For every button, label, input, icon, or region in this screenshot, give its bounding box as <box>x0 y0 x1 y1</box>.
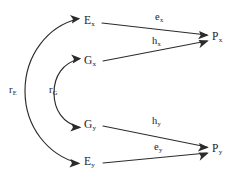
edge-hx-base: h <box>152 35 157 46</box>
node-label-ex: Ex <box>84 15 95 27</box>
edge-hy-base: h <box>152 115 157 126</box>
node-px-subscript: x <box>219 36 223 44</box>
node-gx-subscript: x <box>93 60 97 68</box>
diagram-vector-layer <box>0 0 245 178</box>
node-ex-base: E <box>84 14 91 26</box>
arrow-head-re-top <box>70 15 80 24</box>
arc-re-subscript: E <box>13 89 17 96</box>
node-label-gx: Gx <box>84 55 96 67</box>
arc-label-rg: rG <box>49 85 57 96</box>
edge-hy-subscript: y <box>158 120 161 127</box>
node-label-py: Py <box>212 143 222 155</box>
arrow-head-rg-top <box>71 55 81 64</box>
node-ey-subscript: y <box>91 161 95 169</box>
arc-rg-gx-gy <box>54 55 81 132</box>
arc-rg-base: r <box>49 84 53 95</box>
arrow-head-gx-px <box>199 40 209 48</box>
node-label-ey: Ey <box>84 156 95 168</box>
edge-ey-to-py <box>103 153 209 163</box>
edge-label-ex: ex <box>155 12 163 23</box>
arrow-head-re-bottom <box>69 159 80 167</box>
edge-label-ey: ey <box>154 142 162 153</box>
edge-line-ex-px <box>102 23 207 35</box>
edge-label-hy: hy <box>152 116 161 127</box>
arc-re-base: r <box>9 84 13 95</box>
arrow-head-ey-py <box>199 153 209 161</box>
node-px-base: P <box>212 30 218 42</box>
node-py-base: P <box>212 142 218 154</box>
node-label-px: Px <box>212 31 222 43</box>
edge-hx-subscript: x <box>158 40 161 47</box>
node-gx-base: G <box>84 54 92 66</box>
edge-ex-base: e <box>155 11 160 22</box>
edge-label-hx: hx <box>152 36 161 47</box>
node-label-gy: Gy <box>84 119 96 131</box>
arc-label-re: rE <box>9 85 16 96</box>
node-ey-base: E <box>84 155 91 167</box>
edge-ex-subscript: x <box>160 16 163 23</box>
arrow-head-gy-py <box>198 143 209 151</box>
node-py-subscript: y <box>219 148 223 156</box>
edge-line-ey-py <box>103 153 207 163</box>
node-gy-subscript: y <box>93 124 97 132</box>
node-gy-base: G <box>84 118 92 130</box>
edge-ey-subscript: y <box>159 146 162 153</box>
arrow-head-ex-px <box>198 31 209 39</box>
node-ex-subscript: x <box>91 20 95 28</box>
arc-rg-subscript: G <box>53 89 58 96</box>
edge-ey-base: e <box>154 141 159 152</box>
path-diagram-canvas: Ex Gx Gy Ey Px Py ex hx hy ey rE rG <box>0 0 245 178</box>
